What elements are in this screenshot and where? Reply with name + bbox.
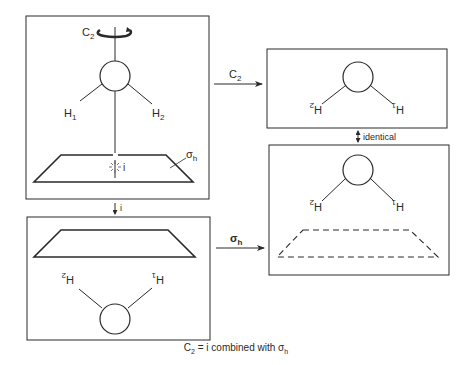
- oxygen-atom: [100, 304, 130, 334]
- caption-lhs: C: [184, 342, 191, 353]
- svg-text:H1: H1: [151, 271, 164, 286]
- panel-original: C2 H1 H2 i σh: [26, 16, 209, 199]
- panel-after-c2: H2 H1: [267, 49, 447, 128]
- arrow-label: i: [120, 203, 122, 213]
- bond-right: [371, 86, 393, 104]
- bond-right: [371, 179, 394, 201]
- svg-text:H2: H2: [61, 271, 74, 286]
- bond-left: [79, 289, 102, 308]
- arrow-identical: identical: [358, 131, 396, 142]
- h2-label: H2: [152, 107, 165, 122]
- caption-middle: = i combined with: [195, 342, 278, 353]
- panel-after-sigma-h: H2 H1: [269, 145, 449, 275]
- right-h-label-inverted: H1: [151, 271, 164, 286]
- oxygen-atom: [100, 61, 130, 91]
- bond-h1: [80, 84, 102, 101]
- panel-after-i: H2 H1: [27, 217, 210, 340]
- h1-label: H1: [64, 107, 77, 122]
- right-h-label-rotated: H1: [391, 198, 404, 213]
- svg-text:H2: H2: [309, 101, 322, 116]
- left-h-label-rotated: H2: [309, 101, 322, 116]
- arrow-inversion: i: [115, 203, 122, 214]
- svg-text:H1: H1: [391, 198, 404, 213]
- inversion-label: i: [123, 162, 125, 173]
- bond-left: [322, 179, 345, 201]
- oxygen-atom: [343, 62, 373, 92]
- caption-rhs-sub: h: [284, 348, 288, 355]
- arrow-label: C2: [229, 68, 242, 83]
- svg-text:H1: H1: [391, 101, 404, 116]
- left-h-label-rotated: H2: [309, 198, 322, 213]
- sigma-h-plane: [34, 230, 195, 257]
- plane-label: σh: [186, 148, 197, 163]
- sigma-h-plane-dashed: [277, 230, 438, 257]
- left-h-label-inverted: H2: [61, 271, 74, 286]
- arrow-sigma-h: σh: [216, 232, 264, 248]
- bond-left: [322, 86, 345, 104]
- arrow-label: σh: [230, 232, 243, 247]
- oxygen-atom: [343, 155, 373, 185]
- svg-text:H2: H2: [309, 198, 322, 213]
- diagram-caption: C2 = i combined with σh: [0, 342, 472, 355]
- sigma-h-plane: [34, 155, 193, 182]
- symmetry-diagram: C2 H1 H2 i σh H2 H1: [0, 0, 472, 365]
- arrow-c2: C2: [214, 68, 262, 84]
- arrow-label: identical: [363, 132, 396, 142]
- axis-label: C2: [82, 26, 95, 41]
- bond-h2: [128, 84, 152, 104]
- bond-right: [128, 288, 152, 308]
- right-h-label-rotated: H1: [391, 101, 404, 116]
